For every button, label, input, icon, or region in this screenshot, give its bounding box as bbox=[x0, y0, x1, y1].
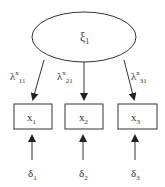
indicator-x2: x2 bbox=[65, 104, 103, 129]
indicator-x1: x1 bbox=[14, 104, 52, 129]
error-label-3: δ3 bbox=[131, 167, 140, 182]
loading-arrow-1 bbox=[33, 60, 44, 99]
indicator-label: x3 bbox=[131, 111, 141, 126]
error-label-2: δ2 bbox=[79, 167, 88, 182]
loading-label-1: λx11 bbox=[10, 69, 26, 85]
loading-label-3: λx31 bbox=[131, 69, 147, 85]
error-label-1: δ1 bbox=[28, 167, 37, 182]
latent-variable-xi1: ξ1 bbox=[32, 12, 136, 62]
loading-label-2: λx21 bbox=[57, 69, 73, 85]
indicator-label: x1 bbox=[27, 111, 37, 126]
path-diagram: ξ1 λx11 λx21 λx31 x1 x2 x3 δ1 bbox=[0, 0, 165, 187]
latent-label: ξ1 bbox=[80, 30, 89, 46]
indicator-label: x2 bbox=[79, 111, 89, 126]
indicator-x3: x3 bbox=[118, 104, 157, 129]
